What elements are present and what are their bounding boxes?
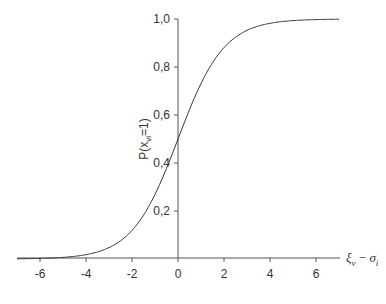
x-tick-label: -6 (35, 267, 46, 281)
y-tick-label: 0,2 (153, 204, 170, 218)
x-ticks: -6-4-20246 (35, 258, 320, 281)
y-axis: 0,20,40,60,81,0 P(xvi=1) (137, 12, 178, 258)
logistic-chart: -6-4-20246 ξv − σi 0,20,40,60,81,0 P(xvi… (0, 0, 386, 304)
x-axis-title: ξv − σi (346, 250, 379, 268)
x-tick-label: -4 (81, 267, 92, 281)
y-axis-title: P(xvi=1) (137, 118, 153, 159)
y-tick-label: 1,0 (153, 12, 170, 26)
x-tick-label: 2 (221, 267, 228, 281)
y-tick-label: 0,8 (153, 60, 170, 74)
y-tick-label: 0,6 (153, 108, 170, 122)
x-tick-label: -2 (127, 267, 138, 281)
x-axis: -6-4-20246 ξv − σi (17, 250, 379, 281)
x-tick-label: 0 (175, 267, 182, 281)
x-tick-label: 6 (313, 267, 320, 281)
y-ticks: 0,20,40,60,81,0 (153, 12, 178, 218)
y-tick-label: 0,4 (153, 156, 170, 170)
x-tick-label: 4 (267, 267, 274, 281)
